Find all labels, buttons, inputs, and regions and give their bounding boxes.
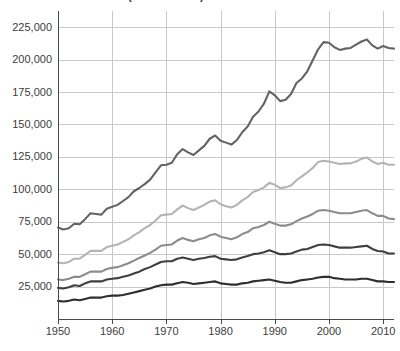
y-axis-tick-label: 200,000 [0,54,52,65]
series-line [58,210,394,280]
x-axis-tick [58,319,59,324]
x-axis-tick [221,319,222,324]
y-axis-tick-label: 175,000 [0,87,52,98]
x-axis-tick-label: 1950 [38,326,78,337]
x-axis-tick-label: 2010 [363,326,400,337]
x-axis-tick [275,319,276,324]
plot-area [58,11,394,319]
series-line [58,244,394,288]
y-axis-tick-label: 100,000 [0,184,52,195]
y-axis-tick-label: 125,000 [0,151,52,162]
x-axis-tick [383,319,384,324]
x-axis-tick-label: 1960 [92,326,132,337]
y-axis-tick-label: 50,000 [0,249,52,260]
series-layer [58,11,394,319]
x-axis-line [58,319,394,320]
y-axis-line [58,11,59,320]
x-axis-tick-label: 2000 [309,326,349,337]
x-axis-tick [112,319,113,324]
x-axis-tick [329,319,330,324]
chart-title: HOUSEHOLD INCOME (IN DOLLARS) [6,0,204,2]
y-axis-tick-label: 25,000 [0,281,52,292]
series-line [58,40,394,230]
x-axis-tick-label: 1980 [201,326,241,337]
series-line [58,277,394,302]
y-axis-tick-label: 225,000 [0,22,52,33]
x-axis-tick [166,319,167,324]
x-axis-tick-label: 1990 [255,326,295,337]
x-axis-tick-label: 1970 [146,326,186,337]
y-axis-tick-label: 75,000 [0,216,52,227]
y-axis-tick-label: 150,000 [0,119,52,130]
